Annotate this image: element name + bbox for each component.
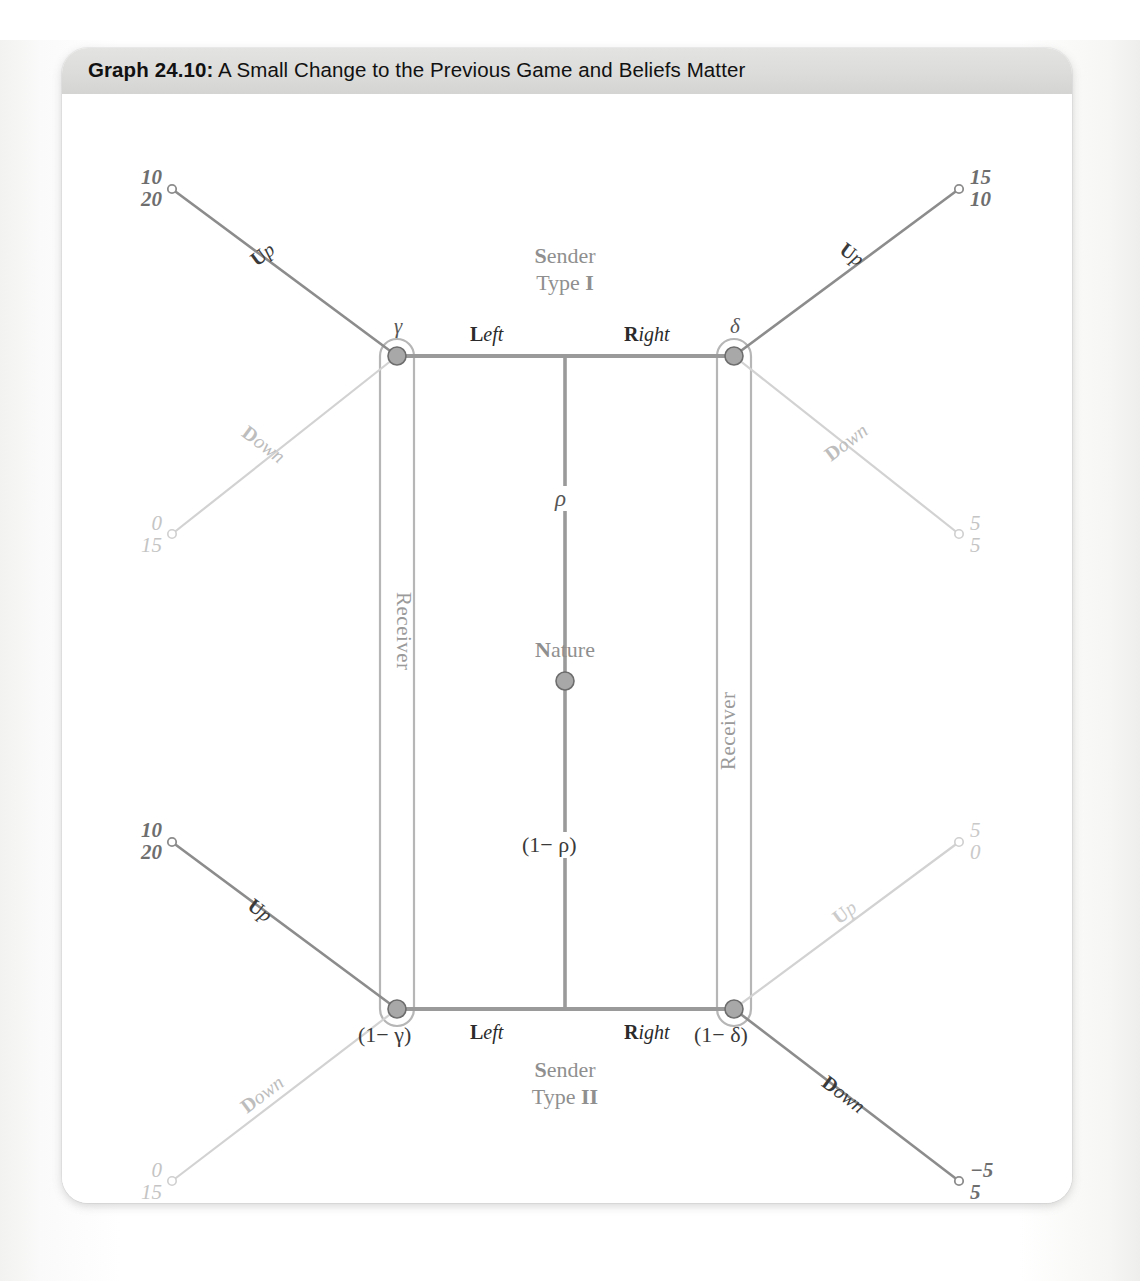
payoff-value-1: 10	[141, 818, 162, 842]
player-label-receiver-left: Receiver	[393, 592, 414, 671]
figure-card: Graph 24.10: A Small Change to the Previ…	[62, 48, 1072, 1203]
payoff-topright-up: 15 10	[970, 166, 1028, 211]
edge-bottomleft-up	[172, 842, 397, 1009]
action-rest: eft	[483, 1021, 503, 1043]
figure-title-text: A Small Change to the Previous Game and …	[213, 58, 745, 81]
figure-body: 10 20 0 15 15 10 5 5 10 20 0 15	[62, 94, 1072, 1203]
information-set-left	[380, 339, 414, 1026]
action-initial: L	[470, 323, 483, 345]
figure-title: Graph 24.10: A Small Change to the Previ…	[88, 58, 745, 82]
payoff-value-2: 5	[970, 534, 1028, 556]
sender2-line-2: Type II	[485, 1083, 645, 1110]
payoff-bottomright-up: 5 0	[970, 819, 1028, 864]
payoff-value-2: 15	[104, 534, 162, 556]
payoff-value-1: 15	[970, 165, 991, 189]
nature-rest: ature	[551, 637, 595, 662]
payoff-value-1: −5	[970, 1158, 993, 1182]
terminal-node-bottomright-down	[955, 1177, 963, 1185]
player-label-sender-type-2: Sender Type II	[485, 1056, 645, 1111]
node-nature	[556, 672, 574, 690]
action-label-sender2-right: Right	[624, 1022, 670, 1042]
action-rest: ight	[638, 1021, 669, 1043]
belief-label-gamma: γ	[394, 316, 402, 337]
page-top-margin	[0, 0, 1140, 40]
belief-label-one-minus-gamma: (1− γ)	[358, 1024, 411, 1046]
payoff-value-2: 15	[104, 1181, 162, 1203]
terminal-node-topleft-up	[168, 185, 176, 193]
player-label-receiver-right: Receiver	[718, 691, 739, 770]
edge-topleft-up	[172, 189, 397, 356]
sender1-line-2: Type I	[485, 269, 645, 296]
probability-rho: ρ	[548, 486, 573, 511]
terminal-node-bottomleft-up	[168, 838, 176, 846]
payoff-value-1: 5	[970, 818, 981, 842]
terminal-node-topright-up	[955, 185, 963, 193]
payoff-bottomright-down: −5 5	[970, 1159, 1028, 1203]
player-label-sender-type-1: Sender Type I	[485, 242, 645, 297]
nature-initial: N	[535, 637, 551, 662]
action-initial: R	[624, 323, 638, 345]
edge-topright-up	[734, 189, 959, 356]
action-initial: R	[624, 1021, 638, 1043]
payoff-topleft-down: 0 15	[104, 512, 162, 557]
belief-label-delta: δ	[730, 316, 740, 337]
payoff-bottomleft-down: 0 15	[104, 1159, 162, 1203]
node-receiver-bottom-left	[388, 1000, 406, 1018]
action-initial: L	[470, 1021, 483, 1043]
sender2-line-1: Sender	[485, 1056, 645, 1083]
information-set-right	[717, 339, 751, 1026]
action-rest: eft	[483, 323, 503, 345]
payoff-value-2: 0	[970, 841, 1028, 863]
player-label-nature: Nature	[495, 636, 635, 663]
payoff-value-2: 20	[104, 841, 162, 863]
terminal-node-bottomright-up	[955, 838, 963, 846]
payoff-value-2: 20	[104, 188, 162, 210]
payoff-value-1: 5	[970, 511, 981, 535]
figure-number: Graph 24.10:	[88, 58, 213, 81]
terminal-node-topleft-down	[168, 530, 176, 538]
payoff-topright-down: 5 5	[970, 512, 1028, 557]
payoff-value-2: 10	[970, 188, 1028, 210]
payoff-topleft-up: 10 20	[104, 166, 162, 211]
action-label-sender1-right: Right	[624, 324, 670, 344]
action-rest: ight	[638, 323, 669, 345]
payoff-bottomleft-up: 10 20	[104, 819, 162, 864]
node-receiver-top-right	[725, 347, 743, 365]
payoff-value-2: 5	[970, 1181, 1028, 1203]
payoff-value-1: 10	[141, 165, 162, 189]
probability-one-minus-rho: (1− ρ)	[517, 832, 582, 858]
terminal-node-topright-down	[955, 530, 963, 538]
action-label-sender1-left: Left	[470, 324, 503, 344]
terminal-node-bottomleft-down	[168, 1177, 176, 1185]
payoff-value-1: 0	[152, 511, 163, 535]
edge-bottomright-up	[734, 842, 959, 1009]
belief-label-one-minus-delta: (1− δ)	[694, 1024, 748, 1046]
sender1-line-1: Sender	[485, 242, 645, 269]
node-receiver-top-left	[388, 347, 406, 365]
payoff-value-1: 0	[152, 1158, 163, 1182]
action-label-sender2-left: Left	[470, 1022, 503, 1042]
node-receiver-bottom-right	[725, 1000, 743, 1018]
